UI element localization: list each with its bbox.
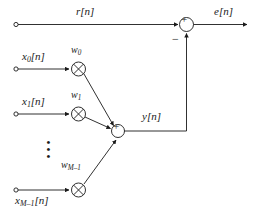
input-1-label: x1[n] (22, 96, 45, 109)
filter-output-label: y[n] (142, 111, 161, 122)
input-1-terminal (14, 112, 18, 116)
weight-1-label: w1 (71, 90, 81, 102)
input-0-terminal (14, 67, 18, 71)
weight-m-label: wM–1 (61, 160, 81, 172)
input-m-terminal (14, 188, 18, 192)
multiplier-0-to-summer-wire (84, 74, 114, 126)
error-summer-plus-label: + (181, 14, 187, 25)
error-summer-minus-label: − (172, 33, 179, 45)
block-diagram-canvas: r[n] e[n] + − + y[n] x0[n] x1[n] xM–1[n]… (0, 0, 255, 215)
error-output-label: e[n] (214, 6, 233, 17)
reference-input-label: r[n] (76, 6, 94, 17)
reference-input-terminal (14, 22, 18, 26)
vertical-ellipsis-icon: ••• (44, 139, 53, 160)
multiplier-m-to-summer-wire (84, 140, 116, 184)
multiplier-1-to-summer-wire (85, 117, 111, 129)
input-m-label: xM–1[n] (15, 195, 48, 208)
weight-0-label: w0 (71, 45, 81, 57)
output-summer-plus-label: + (113, 121, 119, 132)
input-0-label: x0[n] (22, 51, 45, 64)
